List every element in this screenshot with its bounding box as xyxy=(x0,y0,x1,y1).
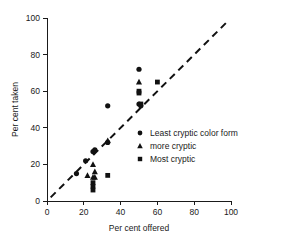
x-axis-title: Per cent offered xyxy=(109,223,170,233)
data-point-square xyxy=(138,102,143,107)
y-tick-label: 100 xyxy=(26,13,40,23)
data-point-triangle xyxy=(105,137,111,143)
legend-label: Least cryptic color form xyxy=(150,128,238,138)
axis-titles: Per cent offeredPer cent taken xyxy=(10,82,169,233)
data-point-square xyxy=(138,157,142,161)
reference-line xyxy=(51,20,229,198)
data-point-circle xyxy=(138,131,143,136)
data-point-triangle xyxy=(136,79,142,85)
x-tick-label: 0 xyxy=(45,207,50,217)
data-point-triangle xyxy=(90,161,96,167)
y-tick-label: 0 xyxy=(35,196,40,206)
series-triangle xyxy=(84,79,142,180)
data-point-triangle xyxy=(92,169,98,175)
legend-label: more cryptic xyxy=(150,141,197,151)
y-tick-label: 20 xyxy=(31,159,41,169)
one-to-one-dashed-line xyxy=(51,20,229,198)
data-point-square xyxy=(105,173,110,178)
y-tick-label: 80 xyxy=(31,50,41,60)
x-tick-label: 100 xyxy=(224,207,238,217)
data-point-square xyxy=(137,91,142,96)
x-tick-label: 20 xyxy=(79,207,89,217)
x-tick-label: 40 xyxy=(116,207,126,217)
data-point-circle xyxy=(105,103,110,108)
data-point-circle xyxy=(83,158,88,163)
data-point-circle xyxy=(92,147,97,152)
legend: Least cryptic color formmore crypticMost… xyxy=(137,128,238,164)
series-circle xyxy=(74,67,144,177)
data-point-square xyxy=(155,80,160,85)
y-tick-label: 40 xyxy=(31,123,41,133)
data-point-square xyxy=(91,188,96,193)
scatter-plot-figure: 020406080100020406080100 Least cryptic c… xyxy=(0,0,288,240)
legend-label: Most cryptic xyxy=(150,154,196,164)
data-point-triangle xyxy=(137,143,143,148)
data-points xyxy=(74,67,160,193)
x-tick-label: 80 xyxy=(189,207,199,217)
data-point-triangle xyxy=(84,172,90,178)
plot-canvas: 020406080100020406080100 Least cryptic c… xyxy=(0,0,288,240)
y-tick-label: 60 xyxy=(31,86,41,96)
data-point-circle xyxy=(74,171,79,176)
x-tick-label: 60 xyxy=(153,207,163,217)
data-point-circle xyxy=(136,67,141,72)
y-axis-title: Per cent taken xyxy=(10,82,20,137)
